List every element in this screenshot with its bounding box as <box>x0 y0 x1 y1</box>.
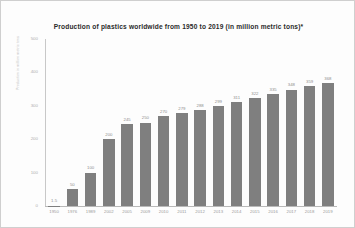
bar[interactable] <box>231 102 242 206</box>
x-tick-label: 2012 <box>191 210 209 214</box>
bar-column[interactable]: 368 <box>322 39 333 206</box>
bar-column[interactable]: 1.5 <box>48 39 59 206</box>
x-tick-label: 2013 <box>209 210 227 214</box>
x-tick-label: 2005 <box>118 210 136 214</box>
bar-column[interactable]: 335 <box>267 39 278 206</box>
x-tick-label: 2010 <box>155 210 173 214</box>
bar-value-label: 288 <box>197 104 204 108</box>
bar-column[interactable]: 311 <box>231 39 242 206</box>
y-tick-label: 300 <box>18 104 38 108</box>
bar-value-label: 200 <box>105 133 112 137</box>
bar-column[interactable]: 270 <box>158 39 169 206</box>
bar[interactable] <box>286 90 297 206</box>
x-tick-label: 2014 <box>228 210 246 214</box>
bar[interactable] <box>103 139 114 206</box>
x-tick-label: 2017 <box>282 210 300 214</box>
bar-value-label: 1.5 <box>51 199 57 203</box>
y-axis-title: Production in million metric tons <box>16 0 20 128</box>
chart-figure: Production of plastics worldwide from 19… <box>0 0 355 228</box>
bar-value-label: 311 <box>233 96 240 100</box>
x-tick-label: 2002 <box>100 210 118 214</box>
bar[interactable] <box>85 173 96 206</box>
bar[interactable] <box>249 98 260 206</box>
bar-value-label: 250 <box>142 116 149 120</box>
bar-column[interactable]: 279 <box>176 39 187 206</box>
bar-value-label: 359 <box>306 80 313 84</box>
x-tick-label: 1950 <box>45 210 63 214</box>
bar-column[interactable]: 100 <box>85 39 96 206</box>
bar-value-label: 279 <box>178 107 185 111</box>
bar-value-label: 50 <box>70 183 75 187</box>
x-tick-label: 2019 <box>319 210 337 214</box>
chart-title: Production of plastics worldwide from 19… <box>1 23 355 30</box>
y-tick-label: 500 <box>18 37 38 41</box>
bar[interactable] <box>194 110 205 206</box>
bar-value-label: 335 <box>270 88 277 92</box>
bar[interactable] <box>213 106 224 206</box>
bar-column[interactable]: 348 <box>286 39 297 206</box>
y-tick-label: 400 <box>18 70 38 74</box>
bar-value-label: 368 <box>324 77 331 81</box>
bar-column[interactable]: 250 <box>140 39 151 206</box>
bar[interactable] <box>140 123 151 207</box>
bar-value-label: 322 <box>251 92 258 96</box>
bar[interactable] <box>176 113 187 206</box>
bar-value-label: 270 <box>160 110 167 114</box>
y-tick-label: 0 <box>18 204 38 208</box>
x-tick-label: 1989 <box>82 210 100 214</box>
bar[interactable] <box>304 86 315 206</box>
y-tick-label: 100 <box>18 171 38 175</box>
bar-column[interactable]: 200 <box>103 39 114 206</box>
bar[interactable] <box>121 124 132 206</box>
bar-column[interactable]: 245 <box>121 39 132 206</box>
bar[interactable] <box>267 94 278 206</box>
x-tick-label: 2015 <box>246 210 264 214</box>
bar[interactable] <box>67 189 78 206</box>
x-tick-label: 2016 <box>264 210 282 214</box>
bar-value-label: 299 <box>215 100 222 104</box>
bar-column[interactable]: 50 <box>67 39 78 206</box>
bar[interactable] <box>158 116 169 206</box>
bar-value-label: 245 <box>124 118 131 122</box>
x-tick-label: 2009 <box>136 210 154 214</box>
x-tick-label: 1976 <box>63 210 81 214</box>
bar-column[interactable]: 359 <box>304 39 315 206</box>
bar[interactable] <box>48 206 59 207</box>
bar-column[interactable]: 288 <box>194 39 205 206</box>
x-tick-label: 2011 <box>173 210 191 214</box>
plot-area: 1.55010020024525027027928829931132233534… <box>45 39 337 206</box>
x-tick-label: 2018 <box>301 210 319 214</box>
bar-value-label: 348 <box>288 83 295 87</box>
bar[interactable] <box>322 83 333 206</box>
bar-column[interactable]: 322 <box>249 39 260 206</box>
bar-column[interactable]: 299 <box>213 39 224 206</box>
bar-value-label: 100 <box>87 166 94 170</box>
y-tick-label: 200 <box>18 137 38 141</box>
x-axis-line <box>45 206 337 207</box>
